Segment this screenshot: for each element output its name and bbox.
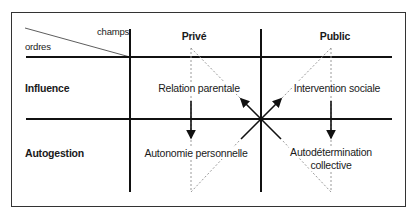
arrow-center-upright [261,99,281,119]
cell-intervention-sociale: Intervention sociale [293,82,381,94]
corner-columns-label: champs [97,26,129,37]
cell-autodetermination-line2: collective [309,159,352,171]
cell-autodetermination-line1: Autodétermination [289,146,373,158]
row-header-influence: Influence [25,82,69,94]
cell-autonomie-personnelle: Autonomie personnelle [143,147,248,159]
line-center-downleft [241,119,261,139]
arrow-center-upleft [241,99,261,119]
column-header-public: Public [320,30,350,42]
corner-rows-label: ordres [25,41,51,52]
row-header-autogestion: Autogestion [25,147,84,159]
cell-relation-parentale: Relation parentale [157,82,241,94]
line-center-downright [261,119,281,139]
column-header-prive: Privé [182,30,207,42]
diagram-canvas [0,0,417,217]
